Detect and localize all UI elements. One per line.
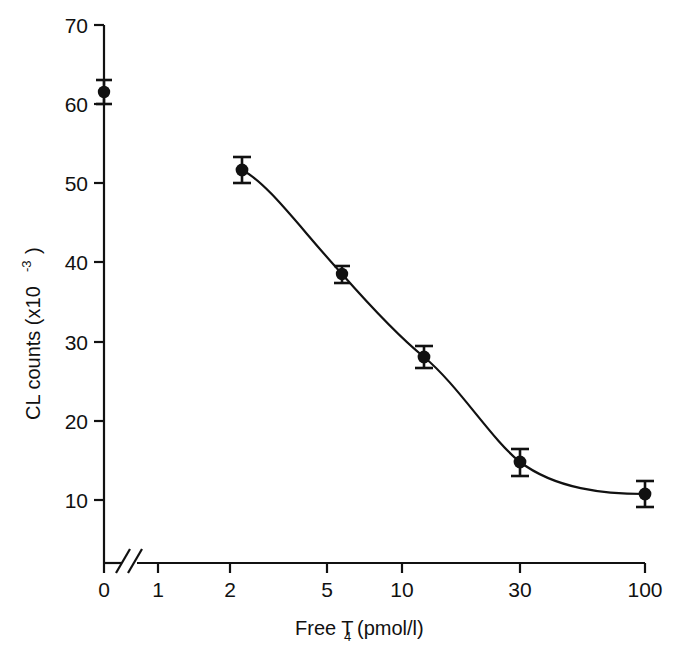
- data-marker-1: [236, 164, 249, 177]
- y-tick-label-50: 50: [65, 172, 88, 195]
- dose-response-chart: 70 60 50 40 30 20 10 0 1 2 5 10 30 100 F…: [0, 0, 683, 653]
- y-tick-label-40: 40: [65, 251, 88, 274]
- data-marker-2: [336, 268, 348, 280]
- y-tick-label-10: 10: [65, 489, 88, 512]
- fitted-curve: [242, 170, 645, 494]
- y-axis-title-main: CL counts (x10: [22, 286, 44, 420]
- axis-break-icon: [116, 549, 142, 573]
- y-tick-label-60: 60: [65, 93, 88, 116]
- y-axis-title: CL counts (x10 -3 ): [19, 247, 44, 420]
- x-ticks: [104, 563, 645, 573]
- x-tick-label-10: 10: [390, 578, 413, 601]
- x-axis-title-subscript: 4: [344, 629, 351, 644]
- x-axis-title-units: (pmol/l): [357, 617, 424, 639]
- y-tick-label-30: 30: [65, 331, 88, 354]
- y-axis-title-superscript: -3: [19, 260, 34, 272]
- data-marker-0: [98, 86, 110, 98]
- x-tick-label-100: 100: [627, 578, 662, 601]
- y-axis-title-close-paren: ): [22, 247, 44, 254]
- x-tick-label-2: 2: [224, 578, 236, 601]
- x-tick-label-30: 30: [508, 578, 531, 601]
- data-marker-4: [514, 456, 527, 469]
- x-tick-label-5: 5: [321, 578, 333, 601]
- x-axis-title: Free T 4 (pmol/l): [295, 617, 424, 644]
- x-tick-label-0: 0: [98, 578, 110, 601]
- data-marker-5: [639, 488, 652, 501]
- y-tick-label-70: 70: [65, 14, 88, 37]
- data-marker-3: [418, 351, 431, 364]
- x-tick-label-1: 1: [152, 578, 164, 601]
- y-tick-label-20: 20: [65, 410, 88, 433]
- chart-container: 70 60 50 40 30 20 10 0 1 2 5 10 30 100 F…: [0, 0, 683, 653]
